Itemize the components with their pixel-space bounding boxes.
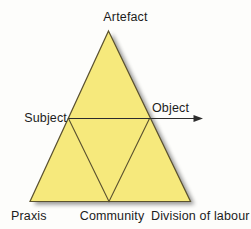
- node-label-community: Community: [62, 210, 162, 223]
- node-label-praxis: Praxis: [11, 210, 47, 223]
- node-label-artefact: Artefact: [0, 11, 251, 24]
- activity-system-diagram: Artefact Subject Object Praxis Community…: [0, 0, 251, 229]
- arrow-head-icon: [194, 115, 204, 122]
- node-label-object: Object: [152, 102, 189, 115]
- node-label-subject: Subject: [10, 112, 67, 125]
- node-label-division-of-labour: Division of labour: [151, 210, 250, 223]
